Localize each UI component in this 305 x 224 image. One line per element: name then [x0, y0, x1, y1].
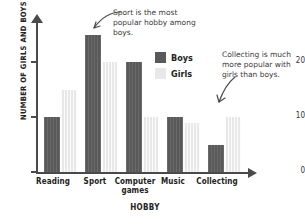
annotation-collecting-arrow-icon [206, 76, 236, 110]
y-tick-10 [31, 116, 37, 118]
bar-computer-games-boys [126, 62, 142, 172]
x-category-label-computer-line2: games [121, 186, 148, 195]
bar-music-girls [184, 123, 200, 173]
x-axis-line [36, 172, 250, 174]
legend-item-girls: Girls [155, 68, 193, 79]
bar-chart: NUMBER OF GIRLS AND BOYS 20 10 0 [0, 0, 305, 224]
annotation-sport-text: Sport is the most popular hobby among bo… [113, 8, 205, 38]
legend-swatch-boys-icon [155, 52, 166, 63]
y-tick-label-10: 10 [281, 112, 305, 120]
bar-group-music [167, 22, 200, 172]
x-category-label-computer-line1: Computer [115, 177, 156, 186]
bar-reading-boys [44, 117, 60, 172]
bar-group-computer-games [126, 22, 159, 172]
annotation-sport-arrow-icon [88, 9, 122, 35]
bar-sport-girls [102, 62, 118, 172]
x-axis-title: HOBBY [100, 203, 190, 212]
chart-legend: Boys Girls [155, 52, 193, 84]
y-tick-0 [31, 171, 37, 173]
legend-swatch-girls-icon [155, 68, 166, 79]
bar-music-boys [167, 117, 183, 172]
x-category-label-collecting: Collecting [188, 177, 246, 186]
bar-computer-games-girls [143, 117, 159, 172]
y-tick-label-0: 0 [281, 167, 305, 175]
bar-group-sport [85, 22, 118, 172]
legend-item-boys: Boys [155, 52, 193, 63]
bar-reading-girls [61, 90, 77, 173]
legend-label-boys: Boys [171, 53, 193, 63]
legend-label-girls: Girls [171, 69, 192, 79]
bar-collecting-boys [208, 145, 224, 173]
bar-sport-boys [85, 35, 101, 173]
y-axis-title: NUMBER OF GIRLS AND BOYS [19, 0, 28, 136]
y-tick-20 [31, 61, 37, 63]
bar-collecting-girls [225, 117, 241, 172]
bar-group-reading [44, 22, 77, 172]
